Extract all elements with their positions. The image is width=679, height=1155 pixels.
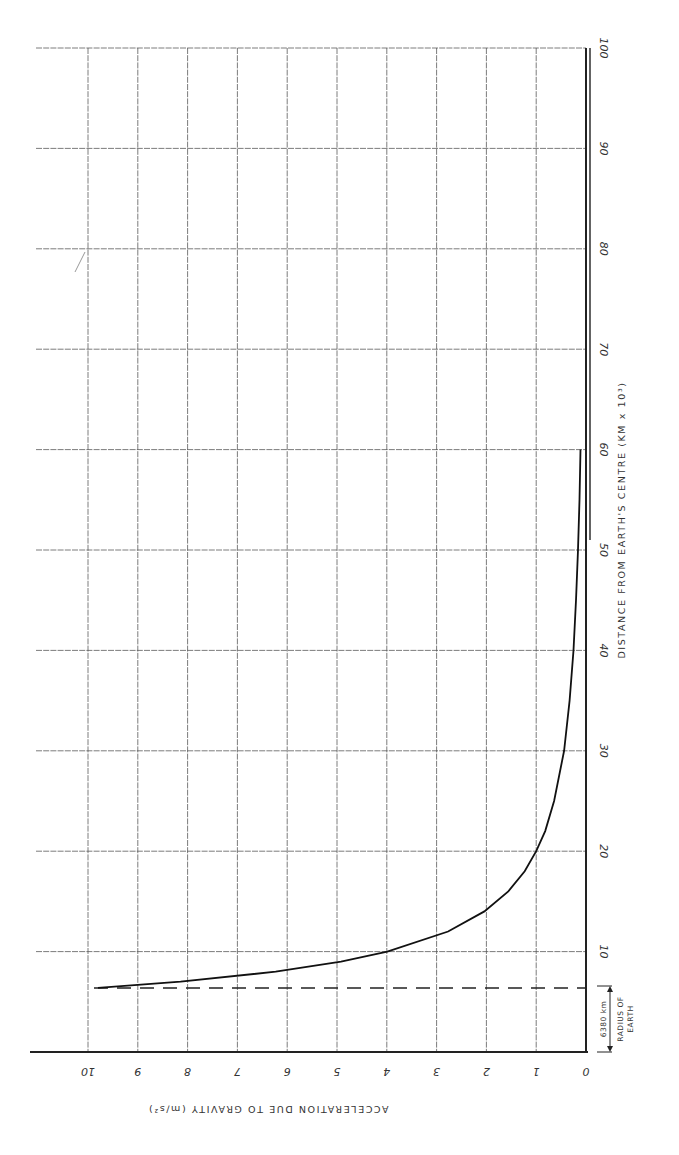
accel-tick-label: 10 [81,1065,95,1078]
accel-tick-label: 6 [284,1065,291,1078]
distance-tick-label: 80 [597,242,610,256]
accel-tick-label: 7 [234,1065,241,1078]
accel-tick-label: 4 [383,1065,390,1078]
accel-tick-label: 8 [184,1065,191,1078]
radius-note-line1: RADIUS OF [616,996,625,1041]
acceleration-axis-title: ACCELERATION DUE TO GRAVITY (m/s²) [147,1104,388,1115]
radius-value-label: 6380 km [599,1001,608,1038]
distance-tick-label: 100 [597,38,610,59]
distance-gridlines [36,48,586,952]
accel-tick-label: 2 [483,1065,490,1078]
pencil-mark [75,252,85,272]
distance-tick-label: 30 [597,744,610,758]
distance-tick-label: 40 [597,643,610,657]
distance-tick-label: 10 [597,945,610,959]
distance-tick-label: 70 [597,342,610,356]
distance-tick-labels: 102030405060708090100 [597,38,610,959]
distance-tick-label: 60 [597,443,610,457]
distance-tick-label: 20 [597,844,610,858]
radius-annotation: 6380 km RADIUS OF EARTH [597,986,635,1052]
gravity-curve [98,450,581,988]
distance-tick-label: 50 [597,543,610,557]
accel-tick-label: 0 [583,1065,590,1078]
acceleration-tick-labels: 012345678910 [81,1065,590,1078]
accel-tick-label: 3 [433,1065,440,1078]
distance-tick-label: 90 [597,141,610,155]
distance-axis-title: DISTANCE FROM EARTH'S CENTRE (KM x 10³) [616,381,627,658]
accel-tick-label: 9 [134,1065,141,1078]
accel-tick-label: 5 [334,1065,341,1078]
radius-note-line2: EARTH [626,1005,635,1032]
accel-tick-label: 1 [533,1065,540,1078]
gravity-chart: 012345678910 102030405060708090100 6380 … [0,0,679,1155]
